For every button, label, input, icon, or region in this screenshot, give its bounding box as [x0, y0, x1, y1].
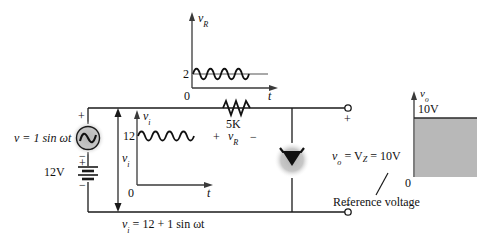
- vi-y-tick-12: 12: [123, 130, 135, 142]
- resistor-minus-sign: −: [250, 131, 257, 143]
- reference-voltage-leader: [376, 173, 388, 195]
- vi-axis-label: vi: [143, 110, 151, 126]
- resistor-drop-label: vR: [228, 130, 238, 146]
- vi-origin-label: 0: [128, 187, 134, 199]
- battery-minus-sign: −: [79, 179, 86, 191]
- figure-root: v_RvR 2 0 t vi 12 0 t vo 10V 0 v = 1 sin…: [0, 0, 492, 237]
- vo-regulated-block: [415, 118, 477, 177]
- output-terminal-positive: [345, 105, 351, 111]
- vr-y-tick-2: 2: [183, 68, 189, 80]
- vr-axis-label: v_RvR: [198, 12, 208, 28]
- vi-arrow-label: vi: [122, 152, 130, 168]
- vi-arrow-head-top: [115, 108, 122, 117]
- vr-origin-label: 0: [184, 90, 190, 102]
- vo-axis-label: vo: [420, 88, 429, 102]
- vo-level-label: 10V: [418, 103, 439, 115]
- vi-arrow-head-bottom: [115, 203, 122, 212]
- vo-origin-label: 0: [405, 177, 411, 189]
- output-plus-sign: +: [344, 113, 351, 125]
- vi-x-axis-label: t: [207, 187, 210, 199]
- source-plus-sign: +: [78, 110, 85, 122]
- vr-x-axis-label: t: [268, 90, 271, 102]
- resistor-plus-sign: +: [213, 131, 220, 143]
- battery-plus-sign: +: [79, 157, 86, 169]
- ac-source-label: v = 1 sin ωt: [14, 132, 71, 144]
- output-voltage-equation: vo = VZ = 10V: [332, 150, 401, 166]
- vi-waveform: [138, 132, 194, 141]
- battery-label: 12V: [44, 166, 65, 178]
- input-voltage-equation: vi = 12 + 1 sin ωt: [122, 218, 204, 234]
- reference-voltage-caption: Reference voltage: [333, 196, 420, 208]
